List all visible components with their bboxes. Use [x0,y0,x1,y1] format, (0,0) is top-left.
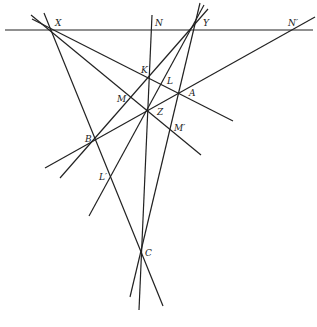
line-xz [31,15,201,155]
label-l-prime: L′ [98,172,107,182]
line-yl [89,5,204,216]
line-bn [45,17,315,168]
label-n-prime: N′ [287,18,298,28]
line-yc [130,3,200,297]
label-y: Y [203,18,210,28]
label-a: A [188,88,196,98]
label-c: C [145,248,152,258]
label-m-prime: M′ [173,123,185,133]
label-x: X [54,18,62,28]
label-m: M [116,94,127,104]
label-n: N [154,18,164,28]
label-b: B [84,134,92,144]
label-z: Z [156,107,164,117]
line-yb [60,9,208,178]
line-nc [139,15,152,310]
line-xa [32,19,233,121]
label-k: K [140,65,149,75]
label-l: L [166,76,173,86]
geometry-diagram: X N Y N′ K L A M Z M′ B L′ C [0,0,317,327]
